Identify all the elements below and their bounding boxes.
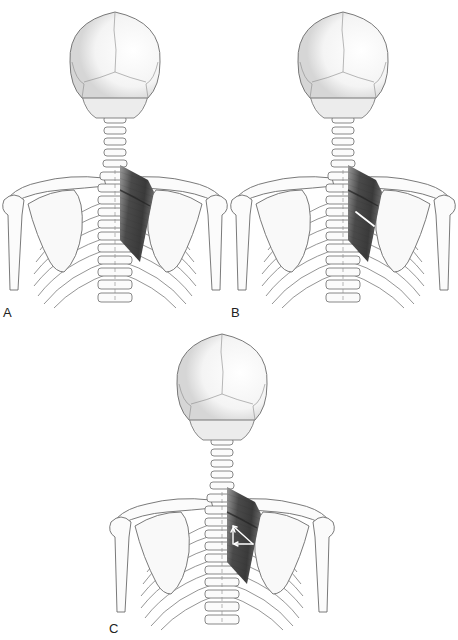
skeleton-rhomboid-figure-c bbox=[107, 322, 337, 632]
panel-label-c: C bbox=[109, 622, 118, 635]
panel-a-illustration bbox=[0, 0, 230, 310]
skeleton-rhomboid-figure-b bbox=[228, 0, 458, 310]
skeleton-rhomboid-figure-a bbox=[0, 0, 230, 310]
panel-label-b: B bbox=[231, 306, 240, 319]
panel-b-illustration bbox=[228, 0, 458, 310]
panel-c-illustration bbox=[107, 322, 337, 632]
panel-label-a: A bbox=[3, 306, 12, 319]
